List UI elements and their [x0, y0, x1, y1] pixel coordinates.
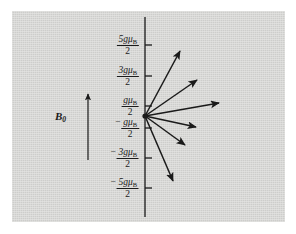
figure-root: B0 5gμB 2 3gμB 2 gμB 2 − gμB 2 − 3gμB 2 … [0, 0, 296, 234]
fraction: gμB 2 [121, 95, 139, 117]
tick-denominator: 2 [116, 159, 139, 169]
tick-label-neg-g: − gμB 2 [115, 117, 139, 139]
tick-label-5g: 5gμB 2 [116, 34, 139, 56]
tick-symbol: gμ [123, 147, 133, 157]
tick-denominator: 2 [116, 189, 139, 199]
vector-m-3-2 [145, 80, 197, 116]
tick-symbol-sub: B [133, 151, 137, 158]
tick-label-neg-5g: − 5gμB 2 [111, 177, 139, 199]
tick-denominator: 2 [121, 129, 139, 139]
fraction: 5gμB 2 [116, 34, 139, 56]
tick-sign: − [111, 178, 117, 188]
tick-symbol-sub: B [133, 38, 137, 45]
tick-sign: − [115, 118, 121, 128]
tick-label-3g: 3gμB 2 [116, 65, 139, 87]
tick-symbol: gμ [123, 117, 133, 127]
tick-symbol-sub: B [133, 121, 137, 128]
tick-symbol-sub: B [133, 69, 137, 76]
tick-symbol: gμ [123, 95, 133, 105]
fraction: 3gμB 2 [116, 147, 139, 169]
tick-denominator: 2 [116, 46, 139, 56]
tick-denominator: 2 [116, 77, 139, 87]
vector-origin [142, 113, 147, 118]
fraction: 3gμB 2 [116, 65, 139, 87]
fraction: 5gμB 2 [116, 177, 139, 199]
fraction: gμB 2 [121, 117, 139, 139]
field-subscript: 0 [62, 115, 66, 124]
tick-symbol: gμ [123, 34, 133, 44]
tick-symbol: gμ [123, 65, 133, 75]
moment-vectors [145, 51, 219, 181]
vector-m-5-2 [145, 51, 180, 116]
tick-symbol-sub: B [133, 181, 137, 188]
tick-denominator: 2 [121, 107, 139, 117]
tick-symbol: gμ [123, 177, 133, 187]
vector-diagram-svg [0, 0, 296, 234]
tick-sign: − [111, 148, 117, 158]
tick-label-g: gμB 2 [121, 95, 139, 117]
tick-label-neg-3g: − 3gμB 2 [111, 147, 139, 169]
tick-symbol-sub: B [133, 99, 137, 106]
vector-m-1-2 [145, 103, 219, 116]
field-label: B0 [55, 111, 66, 122]
